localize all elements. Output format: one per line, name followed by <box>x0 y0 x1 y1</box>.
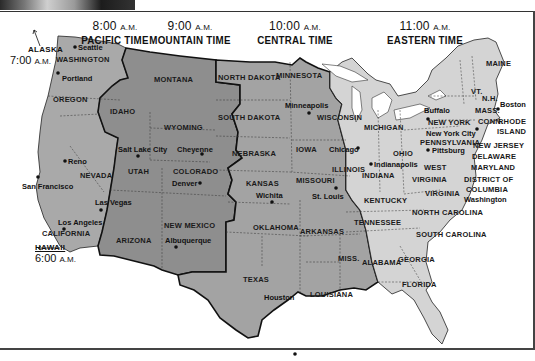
label-utah: UTAH <box>128 167 149 176</box>
label-maine: MAINE <box>486 59 511 68</box>
city-buffalo: Buffalo <box>424 106 450 115</box>
label-georgia: GEORGIA <box>398 255 435 264</box>
label-minnesota: MINNESOTA <box>276 71 323 80</box>
city-reno: Reno <box>68 157 87 166</box>
label-delaware: DELAWARE <box>472 152 516 161</box>
label-district-of: DISTRICT OF <box>464 175 513 184</box>
hawaii-label: HAWAII 6:00 A.M. <box>35 243 76 264</box>
label-rhode: RHODE <box>498 117 526 126</box>
label-arkansas: ARKANSAS <box>300 227 344 236</box>
city-portland: Portland <box>62 74 93 83</box>
label-south-carolina: SOUTH CAROLINA <box>416 230 487 239</box>
label-maryland: MARYLAND <box>471 163 516 172</box>
label-mass: MASS. <box>475 106 500 115</box>
city-denver: Denver <box>172 179 198 188</box>
city-salt-lake-city: Salt Lake City <box>118 145 168 154</box>
label-new-york: NEW YORK <box>428 118 471 127</box>
label-miss: MISS. <box>338 254 359 263</box>
label-louisiana: LOUISIANA <box>310 290 353 299</box>
label-illinois: ILLINOIS <box>332 165 365 174</box>
city-san-francisco: San Francisco <box>22 182 74 191</box>
label-north-dakota: NORTH DAKOTA <box>218 73 281 82</box>
label-iowa: IOWA <box>296 145 317 154</box>
label-california: CALIFORNIA <box>42 229 91 238</box>
label-north-carolina: NORTH CAROLINA <box>412 208 484 217</box>
label-michigan: MICHIGAN <box>364 123 404 132</box>
city-albuquerque: Albuquerque <box>165 236 211 245</box>
city-indianapolis: Indianapolis <box>374 160 418 169</box>
city-las-vegas: Las Vegas <box>95 198 132 207</box>
label-vt: VT. <box>471 87 482 96</box>
zone-label-central: 10:00 A.M. CENTRAL TIME <box>240 17 350 46</box>
label-kansas: KANSAS <box>246 179 279 188</box>
label-columbia: COLUMBIA <box>466 185 508 194</box>
label-nevada: NEVADA <box>80 171 113 180</box>
city-washington: Washington <box>464 195 507 204</box>
label-arizona: ARIZONA <box>116 236 152 245</box>
label-virginia: VIRGINIA <box>425 189 460 198</box>
label-florida: FLORIDA <box>402 280 437 289</box>
us-timezone-map: WASHINGTON OREGON CALIFORNIA NEVADA IDAH… <box>0 0 535 361</box>
label-nebraska: NEBRASKA <box>232 149 276 158</box>
label-colorado: COLORADO <box>173 167 218 176</box>
alaska-arrow-icon <box>34 30 40 46</box>
zone-label-mountain: 9:00 A.M. MOUNTAIN TIME <box>130 17 250 46</box>
label-alabama: ALABAMA <box>362 258 402 267</box>
zone-label-eastern: 11:00 A.M. EASTERN TIME <box>370 17 480 46</box>
label-ohio: OHIO <box>393 149 413 158</box>
city-chicago: Chicago <box>329 145 359 154</box>
city-minneapolis: Minneapolis <box>285 101 328 110</box>
label-south-dakota: SOUTH DAKOTA <box>218 113 281 122</box>
label-nh: N.H. <box>482 94 498 103</box>
label-wyoming: WYOMING <box>164 123 203 132</box>
label-missouri: MISSOURI <box>296 176 335 185</box>
label-wisconsin: WISCONSIN <box>317 113 362 122</box>
label-new-jersey: NEW JERSEY <box>473 141 524 150</box>
label-oregon: OREGON <box>53 95 88 104</box>
city-st-louis: St. Louis <box>312 192 344 201</box>
label-montana: MONTANA <box>154 75 194 84</box>
label-indiana: INDIANA <box>362 171 395 180</box>
city-los-angeles: Los Angeles <box>58 218 102 227</box>
label-washington: WASHINGTON <box>56 55 110 64</box>
city-wichita: Wichita <box>256 191 283 200</box>
city-pittsburg: Pittsburg <box>432 146 465 155</box>
city-new-york-city: New York City <box>426 129 477 138</box>
label-west-virginia: VIRGINIA <box>412 175 447 184</box>
city-houston: Houston <box>264 293 295 302</box>
alaska-label: ALASKA 7:00 A.M. <box>10 45 63 66</box>
label-west: WEST <box>424 163 447 172</box>
city-boston: Boston <box>500 100 526 109</box>
label-tennessee: TENNESSEE <box>354 218 401 227</box>
label-idaho: IDAHO <box>110 107 135 116</box>
label-kentucky: KENTUCKY <box>364 196 407 205</box>
city-cheyenne: Cheyenne <box>177 145 213 154</box>
label-island: ISLAND <box>497 127 527 136</box>
label-oklahoma: OKLAHOMA <box>253 223 299 232</box>
label-texas: TEXAS <box>243 275 269 284</box>
label-new-mexico: NEW MEXICO <box>164 221 215 230</box>
